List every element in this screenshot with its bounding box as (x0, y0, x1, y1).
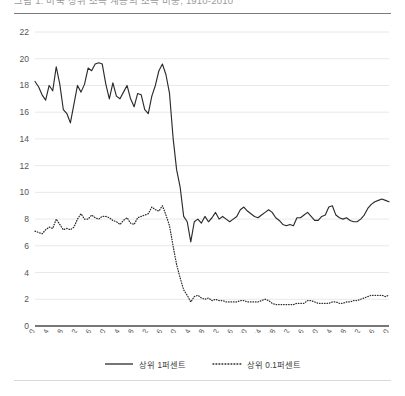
y-tick-8: 8 (24, 214, 29, 224)
x-tick-1978: 1978 (261, 328, 277, 334)
gridlines (35, 32, 389, 326)
legend-label-top01: 상위 0.1퍼센트 (247, 358, 301, 370)
x-tick-2006: 2006 (361, 328, 377, 334)
title-divider (14, 13, 391, 14)
y-tick-18: 18 (20, 80, 30, 90)
x-tick-1954: 1954 (176, 328, 192, 334)
legend-item-top01[interactable]: 상위 0.1퍼센트 (212, 358, 301, 370)
x-tick-1934: 1934 (106, 328, 122, 334)
figure-container: 그림 1. 미국 상위 소득 계층의 소득 비중, 1910-2010 0246… (0, 0, 405, 396)
series-line-top1 (35, 63, 389, 242)
footer-divider (14, 380, 391, 381)
y-tick-2: 2 (24, 294, 29, 304)
y-tick-22: 22 (20, 27, 30, 37)
x-tick-1970: 1970 (233, 328, 249, 334)
legend-swatch-dotted-icon (212, 360, 242, 368)
x-tick-1990: 1990 (304, 328, 320, 334)
x-tick-2002: 2002 (346, 328, 362, 334)
x-tick-2010: 2010 (375, 328, 391, 334)
x-tick-1922: 1922 (63, 328, 79, 334)
figure-title-band: 그림 1. 미국 상위 소득 계층의 소득 비중, 1910-2010 (0, 0, 405, 8)
x-tick-1910: 1910 (21, 328, 37, 334)
x-tick-1982: 1982 (276, 328, 292, 334)
x-tick-1986: 1986 (290, 328, 306, 334)
x-tick-1998: 1998 (332, 328, 348, 334)
page-title: 그림 1. 미국 상위 소득 계층의 소득 비중, 1910-2010 (0, 0, 405, 7)
x-tick-1914: 1914 (35, 328, 51, 334)
y-tick-14: 14 (20, 134, 30, 144)
x-tick-1966: 1966 (219, 328, 235, 334)
x-tick-1946: 1946 (148, 328, 164, 334)
y-tick-16: 16 (20, 107, 30, 117)
x-tick-1974: 1974 (247, 328, 263, 334)
legend-swatch-solid-icon (104, 360, 134, 368)
x-tick-1950: 1950 (162, 328, 178, 334)
x-tick-1962: 1962 (205, 328, 221, 334)
x-tick-1930: 1930 (92, 328, 108, 334)
series-line-top01 (35, 206, 389, 305)
x-tick-1958: 1958 (191, 328, 207, 334)
x-axis-tick-labels: 1910191419181922192619301934193819421946… (21, 328, 391, 334)
line-chart: 0246810121416182022 19101914191819221926… (0, 18, 405, 333)
legend-label-top1: 상위 1퍼센트 (139, 358, 186, 370)
y-tick-12: 12 (20, 161, 30, 171)
x-tick-1918: 1918 (49, 328, 65, 334)
y-tick-4: 4 (24, 268, 29, 278)
plot-area: 0246810121416182022 19101914191819221926… (0, 18, 405, 333)
y-tick-10: 10 (20, 187, 30, 197)
x-tick-1994: 1994 (318, 328, 334, 334)
x-tick-1938: 1938 (120, 328, 136, 334)
y-tick-20: 20 (20, 54, 30, 64)
chart-legend: 상위 1퍼센트 상위 0.1퍼센트 (0, 358, 405, 370)
legend-item-top1[interactable]: 상위 1퍼센트 (104, 358, 186, 370)
x-tick-1926: 1926 (77, 328, 93, 334)
y-tick-6: 6 (24, 241, 29, 251)
x-tick-1942: 1942 (134, 328, 150, 334)
y-axis-tick-labels: 0246810121416182022 (20, 27, 30, 331)
